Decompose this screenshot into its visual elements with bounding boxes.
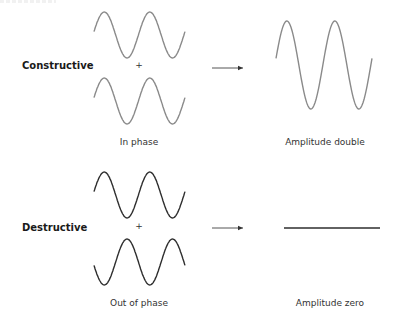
constructive-result-label: Amplitude double [285, 137, 365, 147]
constructive-input-label: In phase [120, 137, 158, 147]
destructive-input-wave-b [94, 239, 185, 285]
destructive-input-wave-a [94, 172, 185, 218]
constructive-result-wave [276, 21, 372, 109]
constructive-input-wave-a [94, 12, 185, 58]
destructive-plus-sign: + [135, 221, 143, 231]
constructive-plus-sign: + [135, 60, 143, 70]
diagram-canvas [0, 0, 396, 323]
destructive-row-label: Destructive [22, 222, 87, 233]
destructive-result-label: Amplitude zero [296, 298, 364, 308]
constructive-input-wave-b [94, 78, 185, 124]
interference-diagram: Constructive + In phase Amplitude double… [0, 0, 396, 323]
destructive-input-label: Out of phase [110, 298, 168, 308]
constructive-row-label: Constructive [22, 60, 94, 71]
